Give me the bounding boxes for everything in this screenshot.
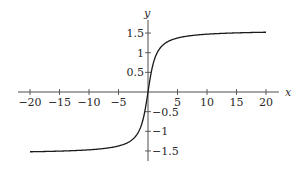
y-axis-label: y bbox=[143, 7, 151, 20]
x-axis-label: x bbox=[285, 86, 292, 99]
y-tick-label: 1 bbox=[137, 47, 144, 60]
y-tick-label: 0.5 bbox=[127, 66, 145, 79]
arctan-chart: −20−15−10−551015201.510.5−0.5−1−1.5 x y bbox=[0, 0, 307, 170]
y-tick-label: −1.5 bbox=[152, 145, 179, 158]
x-tick-label: 15 bbox=[230, 96, 244, 109]
x-tick-label: 20 bbox=[259, 96, 273, 109]
x-tick-label: −15 bbox=[48, 96, 71, 109]
ticks: −20−15−10−551015201.510.5−0.5−1−1.5 bbox=[18, 27, 273, 158]
y-tick-label: 1.5 bbox=[127, 27, 145, 40]
x-tick-label: −20 bbox=[18, 96, 41, 109]
y-tick-label: −0.5 bbox=[152, 106, 179, 119]
y-tick-label: −1 bbox=[152, 125, 168, 138]
x-tick-label: −10 bbox=[77, 96, 100, 109]
x-tick-label: −5 bbox=[110, 96, 126, 109]
x-tick-label: 10 bbox=[200, 96, 214, 109]
